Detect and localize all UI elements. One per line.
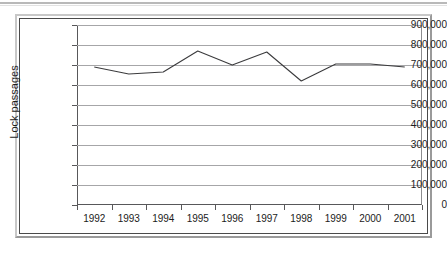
y-axis-tick-label: 800,000 — [373, 40, 447, 50]
y-axis-tick — [72, 145, 77, 146]
gridline — [77, 165, 422, 166]
gridline — [77, 185, 422, 186]
gridline — [77, 85, 422, 86]
y-axis-tick — [72, 25, 77, 26]
y-axis-tick-label: 600,000 — [373, 80, 447, 90]
y-axis-tick-label: 100,000 — [373, 180, 447, 190]
y-axis-tick — [72, 45, 77, 46]
gridline — [77, 125, 422, 126]
x-axis-tick — [353, 205, 354, 210]
gridline — [77, 145, 422, 146]
y-axis-tick — [72, 105, 77, 106]
y-axis-tick-label: 700,000 — [373, 60, 447, 70]
x-axis-tick — [215, 205, 216, 210]
gridline — [77, 25, 422, 26]
gridline — [77, 105, 422, 106]
plot-area-frame — [77, 25, 422, 205]
gridline — [77, 65, 422, 66]
y-axis-tick — [72, 165, 77, 166]
x-axis-tick — [388, 205, 389, 210]
x-axis-tick — [319, 205, 320, 210]
x-axis-tick — [250, 205, 251, 210]
x-axis-tick-label: 2001 — [385, 213, 425, 224]
x-axis-tick — [77, 205, 78, 210]
x-axis-tick — [146, 205, 147, 210]
y-axis-tick-label: 300,000 — [373, 140, 447, 150]
x-axis-tick — [422, 205, 423, 210]
y-axis-tick-label: 200,000 — [373, 160, 447, 170]
x-axis-tick — [181, 205, 182, 210]
x-axis-tick — [112, 205, 113, 210]
x-axis-tick — [284, 205, 285, 210]
y-axis-tick — [72, 125, 77, 126]
line-chart: 0100,000200,000300,000400,000500,000600,… — [0, 0, 447, 254]
y-axis-tick — [72, 185, 77, 186]
y-axis-tick-label: 500,000 — [373, 100, 447, 110]
y-axis-tick-label: 900,000 — [373, 20, 447, 30]
y-axis-tick — [72, 85, 77, 86]
y-axis-tick-label: 400,000 — [373, 120, 447, 130]
y-axis-title: Lock passages — [8, 52, 20, 152]
gridline — [77, 45, 422, 46]
y-axis-tick-label: 0 — [373, 200, 447, 210]
y-axis-tick — [72, 65, 77, 66]
